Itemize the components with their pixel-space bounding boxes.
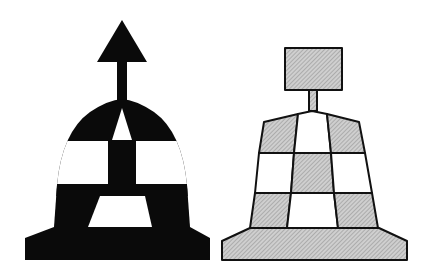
- cell-r1-right: [327, 114, 365, 153]
- cell-r3-left: [250, 193, 291, 228]
- right-buoy: [222, 48, 407, 260]
- buoy-diagram: [0, 0, 429, 280]
- left-buoy: [25, 20, 216, 260]
- buoy-base-hatched: [222, 228, 407, 260]
- buoy-base: [25, 227, 210, 260]
- cell-r1-mid: [294, 111, 331, 153]
- flag-topmark-icon: [285, 48, 342, 90]
- dome-body: [40, 95, 216, 235]
- cell-r2-mid: [291, 153, 334, 193]
- cell-r3-right: [334, 193, 378, 228]
- arrow-topmark-icon: [97, 20, 147, 62]
- flag-stem: [309, 90, 317, 111]
- cell-r2-left: [255, 153, 294, 193]
- cell-r1-left: [259, 114, 298, 153]
- cell-r2-right: [331, 153, 372, 193]
- cell-r3-mid: [287, 193, 338, 228]
- arrow-stem: [117, 60, 127, 102]
